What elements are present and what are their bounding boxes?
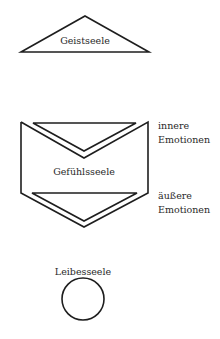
triangle-shape [21,16,149,52]
diagram-canvas: Geistseele Gefühlsseele innere Emotionen… [0,0,220,339]
innere-line1: innere [158,120,189,131]
leibesseele-node: Leibesseele [55,266,112,320]
innere-line2: Emotionen [158,134,210,145]
geistseele-node: Geistseele [21,16,149,52]
leibesseele-label: Leibesseele [55,266,112,277]
aeussere-line2: Emotionen [158,204,210,215]
aeussere-line1: äußere [158,190,192,201]
aeussere-emotionen-annotation: äußere Emotionen [158,190,210,215]
soul-diagram: Geistseele Gefühlsseele innere Emotionen… [0,0,220,339]
gefuehlsseele-node: Gefühlsseele [21,122,148,227]
circle-shape [62,278,104,320]
geistseele-label: Geistseele [60,35,110,46]
gefuehlsseele-label: Gefühlsseele [53,166,115,177]
innere-emotionen-annotation: innere Emotionen [158,120,210,145]
